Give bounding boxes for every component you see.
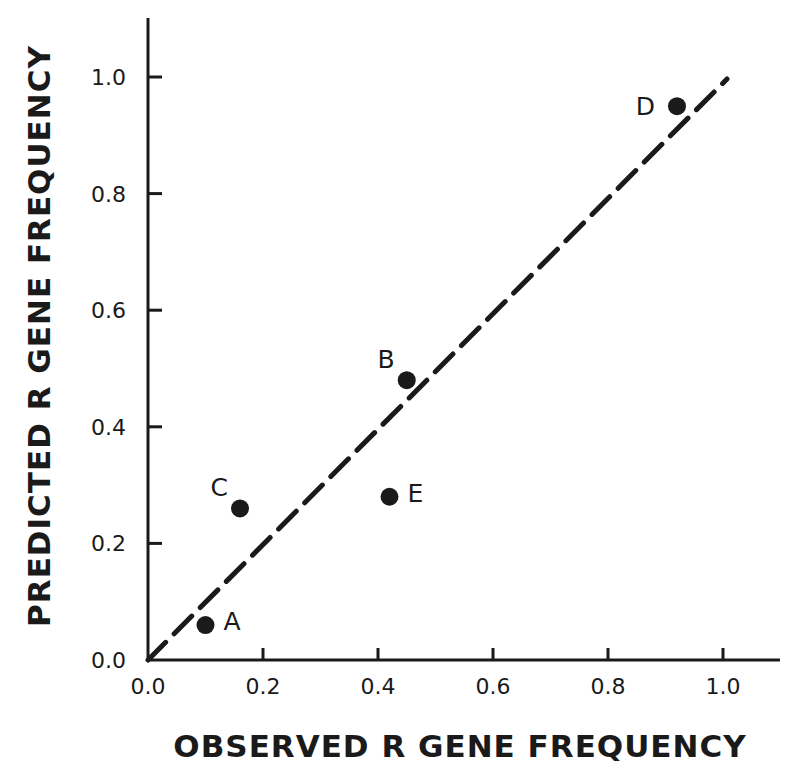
x-tick-label: 0.0 <box>131 674 166 699</box>
data-point-c: C <box>211 473 249 517</box>
x-tick-label: 0.4 <box>361 674 396 699</box>
point-label: D <box>636 92 655 121</box>
point-marker <box>398 371 416 389</box>
reference-line-1to1 <box>148 79 727 660</box>
y-tick-label: 0.2 <box>91 531 126 556</box>
dashed-line <box>148 79 727 660</box>
y-axis-title: PREDICTED R GENE FREQUENCY <box>21 45 57 627</box>
point-label: E <box>408 479 424 508</box>
data-point-b: B <box>378 345 416 389</box>
x-tick-label: 0.8 <box>591 674 626 699</box>
point-marker <box>381 488 399 506</box>
data-point-a: A <box>197 607 241 636</box>
data-point-e: E <box>381 479 424 508</box>
y-tick-label: 1.0 <box>91 65 126 90</box>
y-tick-label: 0.4 <box>91 415 126 440</box>
x-tick-label: 0.6 <box>476 674 511 699</box>
point-marker <box>231 499 249 517</box>
x-tick-label: 1.0 <box>706 674 741 699</box>
x-axis-title: OBSERVED R GENE FREQUENCY <box>173 728 746 764</box>
data-point-d: D <box>636 92 686 121</box>
scatter-chart: 0.00.20.40.60.81.00.00.20.40.60.81.0 ABC… <box>0 0 793 775</box>
point-marker <box>668 97 686 115</box>
point-label: A <box>224 607 241 636</box>
point-marker <box>197 616 215 634</box>
y-tick-label: 0.8 <box>91 182 126 207</box>
y-tick-label: 0.0 <box>91 648 126 673</box>
axes: 0.00.20.40.60.81.00.00.20.40.60.81.0 <box>91 18 780 699</box>
point-label: C <box>211 473 228 502</box>
y-tick-label: 0.6 <box>91 298 126 323</box>
point-label: B <box>378 345 395 374</box>
x-tick-label: 0.2 <box>246 674 281 699</box>
